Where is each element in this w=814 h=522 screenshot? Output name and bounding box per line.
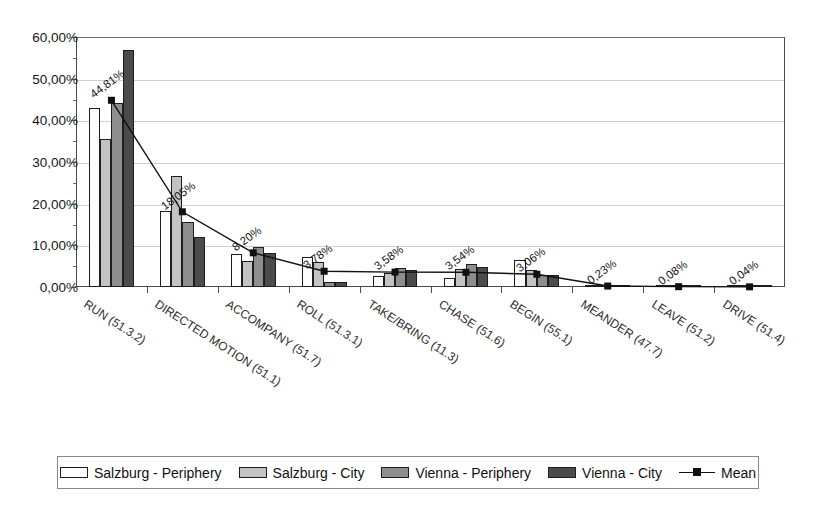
y-tick-minor [73,100,76,101]
x-tick-mark [218,287,219,293]
y-tick-mark [71,162,76,163]
bar [123,50,134,288]
x-tick-mark [147,287,148,293]
x-category-label: LEAVE (51.2) [649,297,717,348]
legend-swatch [60,467,88,478]
legend-item[interactable]: Mean [679,465,756,481]
gridline [77,121,784,122]
gridline [77,205,784,206]
bar [335,282,346,287]
chart-legend: Salzburg - PeripherySalzburg - CityVienn… [57,456,759,489]
legend-swatch [239,467,267,478]
x-category-label: BEGIN (55.1) [507,297,575,348]
bar [194,237,205,287]
y-tick-minor [73,266,76,267]
legend-item[interactable]: Salzburg - Periphery [60,465,222,481]
y-tick-mark [71,120,76,121]
bar [619,285,630,287]
x-category-label: DIRECTED MOTION (51.1) [153,297,284,389]
bar [406,270,417,287]
bar [264,253,275,287]
x-tick-mark [714,287,715,293]
x-tick-mark [572,287,573,293]
legend-swatch [548,467,576,478]
bar [324,282,335,287]
gridline [77,163,784,164]
y-tick-minor [73,183,76,184]
legend-swatch [381,467,409,478]
bar [477,267,488,287]
legend-label: Mean [721,465,756,481]
y-tick-mark [71,287,76,288]
legend-item[interactable]: Vienna - Periphery [381,465,531,481]
bar [608,285,619,287]
bar [667,285,678,287]
legend-label: Salzburg - Periphery [94,465,222,481]
bar [761,285,772,287]
x-category-label: ROLL (51.3.1) [295,297,366,350]
bar [395,268,406,287]
bar [466,264,477,287]
x-tick-mark [501,287,502,293]
bar [111,103,122,287]
bar [738,285,749,287]
legend-label: Vienna - City [582,465,662,481]
x-category-label: CHASE (51.6) [436,297,507,350]
y-tick-minor [73,141,76,142]
chart-container: 0,00%10,00%20,00%30,00%40,00%50,00%60,00… [0,0,814,522]
legend-label: Salzburg - City [273,465,365,481]
x-tick-mark [643,287,644,293]
bar [89,108,100,287]
x-tick-mark [360,287,361,293]
bar [526,270,537,288]
y-tick-mark [71,79,76,80]
bar [242,261,253,287]
bar [100,139,111,287]
y-tick-mark [71,245,76,246]
y-tick-mark [71,204,76,205]
bar [231,254,242,287]
y-tick-minor [73,58,76,59]
x-tick-mark [289,287,290,293]
x-category-label: RUN (51.3.2) [82,297,149,347]
gridline [77,80,784,81]
legend-mean-line-icon [679,467,715,478]
y-tick-minor [73,225,76,226]
bar [548,275,559,287]
bar [444,278,455,287]
bar [160,211,171,287]
bar [750,285,761,287]
bar [597,285,608,287]
bar [253,247,264,287]
y-tick-mark [71,37,76,38]
legend-label: Vienna - Periphery [415,465,531,481]
legend-item[interactable]: Vienna - City [548,465,662,481]
bar [690,285,701,287]
bar [182,222,193,287]
bar [373,276,384,287]
bar [384,273,395,287]
bar [679,285,690,287]
x-tick-mark [431,287,432,293]
bar [537,275,548,287]
legend-item[interactable]: Salzburg - City [239,465,365,481]
x-category-label: DRIVE (51.4) [720,297,787,348]
bar [455,269,466,287]
